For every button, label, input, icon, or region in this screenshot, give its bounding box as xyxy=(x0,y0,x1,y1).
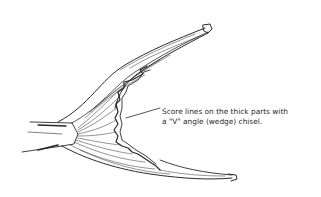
annotation-text: Score lines on the thick parts with a "V… xyxy=(162,107,288,127)
annotation-leader xyxy=(126,108,160,118)
annotation-line-1: Score lines on the thick parts with xyxy=(162,107,288,117)
tail-fin-drawing xyxy=(0,0,321,197)
annotation-line-2: a "V" angle (wedge) chisel. xyxy=(162,117,288,127)
peduncle xyxy=(22,122,78,152)
lower-lobe-edge xyxy=(62,146,232,179)
tail-fin-diagram: Score lines on the thick parts with a "V… xyxy=(0,0,321,197)
fin-rays xyxy=(70,34,225,176)
